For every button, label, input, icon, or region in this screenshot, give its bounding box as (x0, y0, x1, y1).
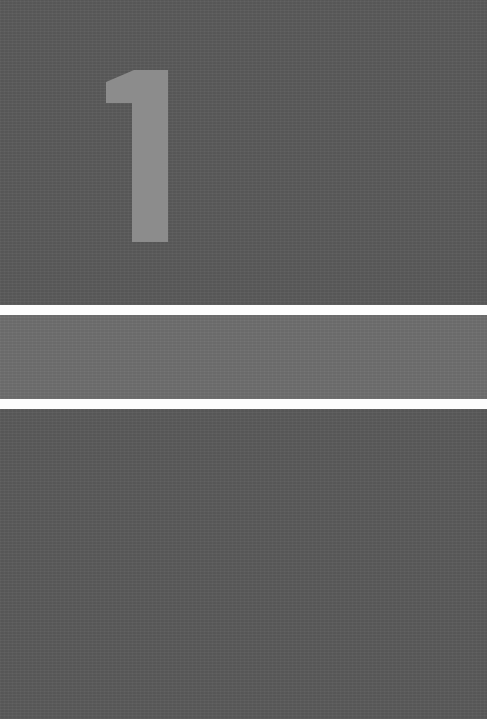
middle-band (0, 315, 487, 399)
top-panel: 1 (0, 0, 487, 305)
numeral-label: 1 (106, 243, 107, 244)
white-stripe-bottom (0, 399, 487, 409)
white-stripe-top (0, 305, 487, 315)
numeral-one: 1 (106, 69, 169, 243)
bottom-panel (0, 409, 487, 719)
numeral-one-glyph (106, 69, 169, 243)
